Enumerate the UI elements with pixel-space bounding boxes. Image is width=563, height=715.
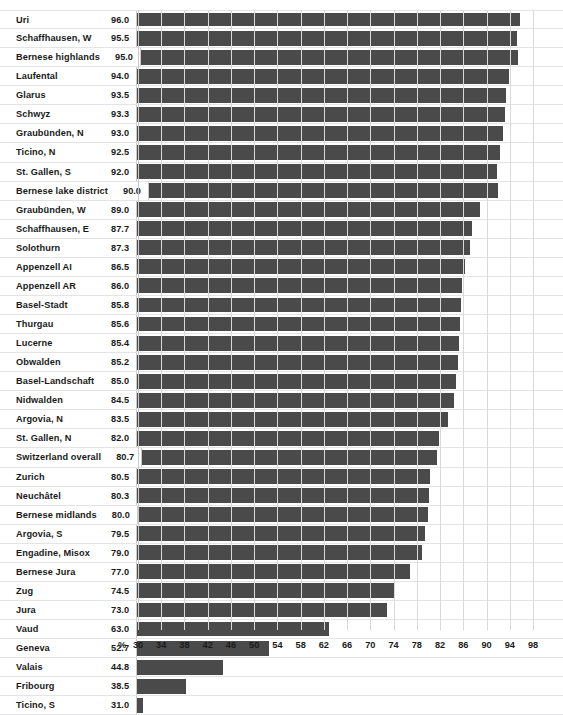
table-row: Zurich80.5 [0, 468, 563, 487]
bar [137, 679, 186, 694]
table-row: Engadine, Misox79.0 [0, 544, 563, 563]
row-category-label: St. Gallen, S [0, 163, 96, 181]
bar-track [136, 601, 563, 619]
row-value-label: 74.5 [96, 582, 130, 600]
bar-track [136, 258, 563, 276]
bar-track [136, 391, 563, 409]
row-category-label: Lucerne [0, 334, 96, 352]
row-category-label: Schaffhausen, E [0, 220, 96, 238]
bar-track [136, 29, 563, 47]
bar-track [148, 182, 563, 200]
x-tick-label: 90 [481, 640, 491, 650]
bar [137, 355, 458, 370]
x-tick-label: 38 [179, 640, 189, 650]
table-row: Appenzell AI86.5 [0, 258, 563, 277]
row-value-label: 94.0 [96, 67, 130, 85]
bar [137, 412, 448, 427]
x-tick-label: 86 [458, 640, 468, 650]
bar [137, 278, 462, 293]
bar-track [136, 296, 563, 314]
bar-track [136, 563, 563, 581]
row-category-label: Argovia, N [0, 410, 96, 428]
bar-track [136, 86, 563, 104]
table-row: Schwyz93.3 [0, 105, 563, 124]
bar-track [136, 620, 563, 638]
bar-track [136, 105, 563, 123]
x-tick-label: 62 [319, 640, 329, 650]
row-value-label: 85.0 [96, 372, 130, 390]
row-category-label: Vaud [0, 620, 96, 638]
bar-track [136, 11, 563, 28]
table-row: Thurgau85.6 [0, 315, 563, 334]
x-tick-label: 58 [296, 640, 306, 650]
row-value-label: 84.5 [96, 391, 130, 409]
table-row: Fribourg38.5 [0, 677, 563, 696]
table-row: Glarus93.5 [0, 86, 563, 105]
row-value-label: 77.0 [96, 563, 130, 581]
x-axis-unit-label: % [118, 640, 126, 650]
table-row: Laufental94.0 [0, 67, 563, 86]
bar-track [137, 506, 563, 524]
row-category-label: Jura [0, 601, 96, 619]
bar-track [136, 525, 563, 543]
bar [137, 526, 425, 541]
row-category-label: Graubünden, N [0, 124, 96, 142]
bar [137, 488, 429, 503]
x-tick-label: 70 [365, 640, 375, 650]
bar-track [136, 677, 563, 695]
bar [137, 469, 430, 484]
row-value-label: 93.0 [96, 124, 130, 142]
row-category-label: Schwyz [0, 105, 96, 123]
row-value-label: 63.0 [96, 620, 130, 638]
row-category-label: Appenzell AR [0, 277, 96, 295]
table-row: Basel-Stadt85.8 [0, 296, 563, 315]
row-value-label: 89.0 [96, 201, 130, 219]
row-value-label: 31.0 [96, 696, 130, 714]
row-value-label: 79.5 [96, 525, 130, 543]
row-category-label: Obwalden [0, 353, 96, 371]
bar-track [136, 315, 563, 333]
table-row: St. Gallen, N82.0 [0, 429, 563, 448]
table-row: Nidwalden84.5 [0, 391, 563, 410]
row-category-label: Thurgau [0, 315, 96, 333]
bar [137, 126, 503, 141]
x-tick-label: 82 [435, 640, 445, 650]
row-value-label: 93.5 [96, 86, 130, 104]
row-value-label: 83.5 [96, 410, 130, 428]
bar-track [136, 201, 563, 219]
table-row: Bernese midlands80.0 [0, 506, 563, 525]
table-row: Bernese lake district90.0 [0, 182, 563, 201]
table-row: Jura73.0 [0, 601, 563, 620]
x-tick-label: 94 [505, 640, 515, 650]
x-axis: % 303438424650545862667074788286909498 [0, 640, 563, 662]
row-value-label: 85.4 [96, 334, 130, 352]
row-category-label: Switzerland overall [0, 448, 101, 466]
row-category-label: Laufental [0, 67, 96, 85]
bar-track [136, 277, 563, 295]
table-row: Ticino, S31.0 [0, 696, 563, 715]
row-category-label: Solothurn [0, 239, 96, 257]
row-category-label: Zurich [0, 468, 96, 486]
x-tick-label: 66 [342, 640, 352, 650]
bar-track [136, 410, 563, 428]
row-value-label: 82.0 [96, 429, 130, 447]
plot-area: Uri96.0Schaffhausen, W95.5Bernese highla… [0, 10, 563, 630]
bar [137, 603, 387, 618]
row-value-label: 73.0 [96, 601, 130, 619]
row-value-label: 85.8 [96, 296, 130, 314]
bar [137, 202, 480, 217]
row-value-label: 80.3 [96, 487, 130, 505]
x-tick-label: 74 [388, 640, 398, 650]
bar [137, 431, 439, 446]
row-category-label: St. Gallen, N [0, 429, 96, 447]
bar [137, 298, 461, 313]
row-value-label: 80.0 [97, 506, 131, 524]
row-category-label: Bernese highlands [0, 48, 100, 66]
bar-track [136, 696, 563, 714]
bar [137, 145, 500, 160]
bar [137, 69, 509, 84]
bar [137, 164, 497, 179]
x-tick-label: 34 [156, 640, 166, 650]
row-value-label: 85.2 [96, 353, 130, 371]
row-category-label: Zug [0, 582, 96, 600]
